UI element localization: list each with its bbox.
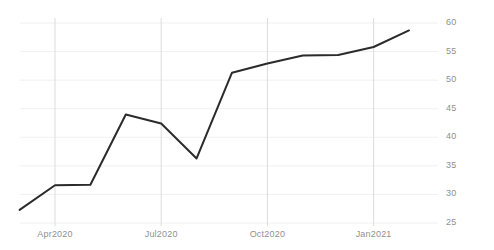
y-tick-label: 60: [446, 17, 456, 27]
x-tick-label: Apr2020: [20, 229, 90, 239]
series-line: [20, 30, 409, 209]
x-tick-label: Jan2021: [339, 229, 409, 239]
horizontal-gridlines: [20, 23, 438, 223]
y-tick-label: 45: [446, 103, 456, 113]
y-tick-label: 55: [446, 46, 456, 56]
line-chart: 6055504540353025 Apr2020Jul2020Oct2020Ja…: [0, 0, 494, 250]
chart-canvas: [0, 0, 494, 250]
y-tick-label: 30: [446, 188, 456, 198]
x-tick-label: Oct2020: [232, 229, 302, 239]
x-tick-label: Jul2020: [126, 229, 196, 239]
y-tick-label: 40: [446, 131, 456, 141]
y-tick-label: 25: [446, 217, 456, 227]
y-tick-label: 35: [446, 160, 456, 170]
y-tick-label: 50: [446, 74, 456, 84]
